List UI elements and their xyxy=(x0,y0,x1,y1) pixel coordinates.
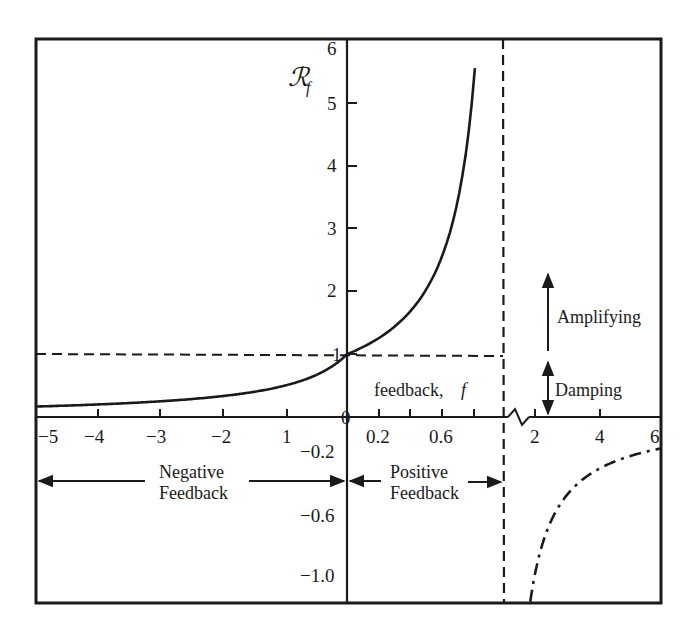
y-tick-label-2: 2 xyxy=(327,280,337,301)
y-tick-label-5: 5 xyxy=(327,93,337,114)
y-tick-label-4: 4 xyxy=(327,155,337,176)
y-tick-label-neg-0.2: −0.2 xyxy=(300,441,334,462)
x-tick-label-neg2: −2 xyxy=(211,426,231,447)
feedback-chart: 6 5 4 3 2 1 0 −0.2 −0.6 −1.0 −5 −4 −3 −2… xyxy=(0,0,695,637)
x-axis-title-variable: f xyxy=(461,380,469,400)
y-tick-label-1: 1 xyxy=(332,344,342,365)
x-tick-label-2: 2 xyxy=(530,426,540,447)
y-ticks-positive xyxy=(347,103,357,354)
y-tick-label-6: 6 xyxy=(327,38,337,59)
x-axis-title-text: feedback, xyxy=(374,380,443,400)
x-tick-label-neg3: −3 xyxy=(146,426,166,447)
damping-label: Damping xyxy=(555,380,622,400)
unity-reference-line xyxy=(36,354,503,356)
negative-feedback-label-line1: Negative xyxy=(159,462,224,482)
positive-feedback-label-line1: Positive xyxy=(390,462,448,482)
x-tick-label-0.2: 0.2 xyxy=(366,426,390,447)
y-tick-label-neg-1.0: −1.0 xyxy=(300,565,334,586)
asymptote-line xyxy=(503,39,504,603)
y-axis-title-subscript: f xyxy=(306,79,313,97)
x-tick-label-neg5: −5 xyxy=(38,426,58,447)
negative-feedback-label-line2: Feedback xyxy=(159,483,228,503)
amplifying-label: Amplifying xyxy=(557,307,641,327)
y-tick-label-neg-0.6: −0.6 xyxy=(300,505,334,526)
x-tick-label-neg1: 1 xyxy=(282,426,292,447)
y-tick-label-3: 3 xyxy=(327,218,337,239)
y-axis-title: ℛ f xyxy=(288,63,313,97)
x-tick-label-4: 4 xyxy=(595,426,605,447)
x-tick-label-6: 6 xyxy=(650,426,660,447)
gain-curve-dash-dot xyxy=(530,449,660,602)
x-tick-label-0.6: 0.6 xyxy=(429,426,453,447)
x-axis-break xyxy=(508,409,529,425)
positive-feedback-label-line2: Feedback xyxy=(390,483,459,503)
x-tick-label-neg4: −4 xyxy=(84,426,105,447)
x-axis-title: feedback, f xyxy=(374,380,469,400)
origin-label: 0 xyxy=(341,407,351,428)
